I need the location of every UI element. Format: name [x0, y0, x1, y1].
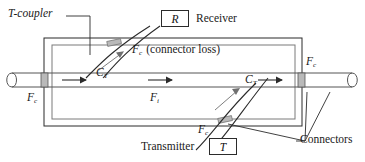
ct-lower-label: CT: [245, 74, 257, 86]
receiver-box-symbol: R: [171, 13, 178, 25]
connector-left-on-fiber: [41, 73, 48, 87]
fiber-cable-right-endcap-inner: [348, 73, 353, 87]
fc-left-sub: c: [34, 97, 37, 105]
figure-canvas: T-coupler R Receiver Fc(connector loss) …: [0, 0, 365, 162]
fc-connector-loss-sub: c: [139, 49, 142, 57]
fc-right-sub: c: [313, 61, 316, 69]
ct-upper-label: CT: [96, 67, 108, 79]
ct-upper-base: C: [96, 66, 104, 78]
fiber-cable-left-endcap-inner: [12, 73, 17, 87]
ct-lower-sub: T: [253, 79, 257, 87]
ct-lower-base: C: [245, 73, 253, 85]
transmitter-label: Transmitter: [141, 141, 194, 153]
ct-upper-sub: T: [104, 72, 108, 80]
transmitter-box: T: [209, 138, 237, 155]
t-coupler-label: T-coupler: [8, 8, 53, 20]
fc-lower-base: F: [198, 123, 205, 135]
fc-right-label: Fc: [306, 56, 316, 68]
receiver-label: Receiver: [196, 13, 237, 25]
fc-lower-label: Fc: [198, 124, 208, 136]
fi-label: Fi: [150, 92, 159, 104]
receiver-box: R: [161, 10, 189, 27]
fc-left-base: F: [27, 91, 34, 103]
fc-connector-loss-base: F: [132, 43, 139, 55]
fc-left-label: Fc: [27, 92, 37, 104]
fc-lower-sub: c: [205, 129, 208, 137]
transmitter-box-symbol: T: [220, 141, 226, 153]
fiber-cable-left-endcap: [7, 73, 12, 87]
fi-base: F: [150, 91, 157, 103]
connector-right-on-fiber: [298, 73, 305, 87]
fi-sub: i: [157, 97, 159, 105]
connectors-label: Connectors: [300, 134, 352, 146]
connector-loss-paren: (connector loss): [146, 43, 220, 55]
t-coupler-leader-line: [66, 16, 90, 55]
fc-connector-loss-label: Fc(connector loss): [132, 44, 220, 56]
fc-right-base: F: [306, 55, 313, 67]
lower-tap-direction-arrow: [215, 88, 240, 110]
fiber-cable-right-endcap: [352, 73, 357, 87]
t-coupler-inner-box: [52, 45, 295, 119]
